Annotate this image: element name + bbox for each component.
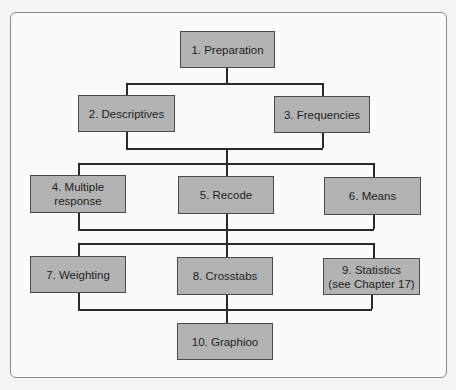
node-crosstabs: 8. Crosstabs [177,257,273,295]
node-label: 8. Crosstabs [193,269,258,283]
node-frequencies: 3. Frequencies [274,96,370,133]
connector [78,243,374,245]
connector [373,243,375,258]
connector [78,163,80,175]
connector [373,163,375,177]
node-multiple-response: 4. Multiple response [30,175,126,213]
node-graphics: 10. Graphioo [177,323,273,360]
node-label: 5. Recode [200,188,252,202]
node-label: 3. Frequencies [284,108,360,122]
node-weighting: 7. Weighting [30,256,126,293]
connector [126,83,128,95]
connector [78,292,80,309]
connector [78,309,372,311]
node-preparation: 1. Preparation [180,31,275,68]
connector [226,67,228,83]
node-label: 6. Means [349,189,396,203]
connector [126,83,323,85]
node-label: 1. Preparation [191,43,263,57]
connector [322,132,324,148]
node-descriptives: 2. Descriptives [78,95,175,132]
connector [373,214,375,229]
connector [78,163,374,165]
connector [322,83,324,96]
node-label-line1: 4. Multiple [52,180,104,194]
connector [78,243,80,256]
node-recode: 5. Recode [178,176,274,214]
connector [126,131,128,148]
node-label-line1: 9. Statistics [342,263,401,277]
node-label: 10. Graphioo [192,335,259,349]
connector [226,213,228,257]
node-means: 6. Means [324,177,421,215]
node-label: 7. Weighting [46,268,110,282]
node-label-line2: response [54,194,101,208]
connector [226,294,228,323]
node-label: 2. Descriptives [89,107,164,121]
connector [226,148,228,176]
node-label-line2: (see Chapter 17) [328,277,414,291]
node-statistics: 9. Statistics (see Chapter 17) [323,258,420,295]
connector [126,148,323,150]
connector [371,294,373,309]
connector [78,212,80,229]
